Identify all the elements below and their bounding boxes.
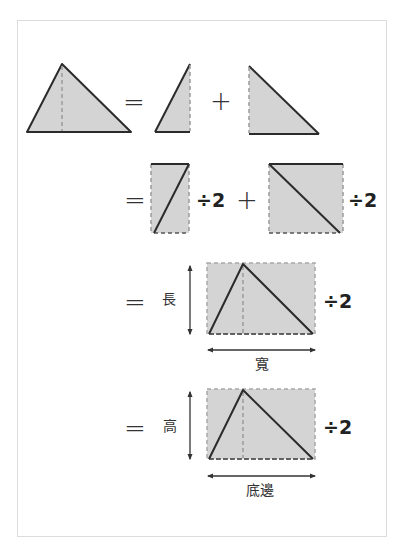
row2-divide-left: ÷2 xyxy=(196,191,225,210)
row4-equals-sign: = xyxy=(124,415,146,441)
row1-left-triangle xyxy=(155,64,190,132)
row3-width-label: 寬 xyxy=(255,357,269,371)
row3-equals-sign: = xyxy=(124,289,146,315)
row2-equals-sign: = xyxy=(124,187,146,213)
row1-plus-sign: + xyxy=(210,88,232,114)
row2-divide-right: ÷2 xyxy=(348,191,377,210)
row2-plus-sign: + xyxy=(236,187,258,213)
row2-narrow-rectangle xyxy=(151,164,189,233)
row4-rectangle-triangle xyxy=(207,389,315,459)
row2-wide-rectangle xyxy=(269,164,343,233)
row1-full-triangle xyxy=(27,64,131,132)
row3-length-label: 長 xyxy=(162,292,176,306)
row4-height-label: 高 xyxy=(163,419,177,433)
row1-equals-sign: = xyxy=(123,89,145,115)
row4-base-label: 底邊 xyxy=(246,483,274,497)
row1-right-triangle xyxy=(249,66,319,134)
row3-divide: ÷2 xyxy=(323,292,352,311)
row3-rectangle-triangle xyxy=(207,263,315,334)
diagram-canvas xyxy=(0,0,403,554)
row4-divide: ÷2 xyxy=(323,418,352,437)
